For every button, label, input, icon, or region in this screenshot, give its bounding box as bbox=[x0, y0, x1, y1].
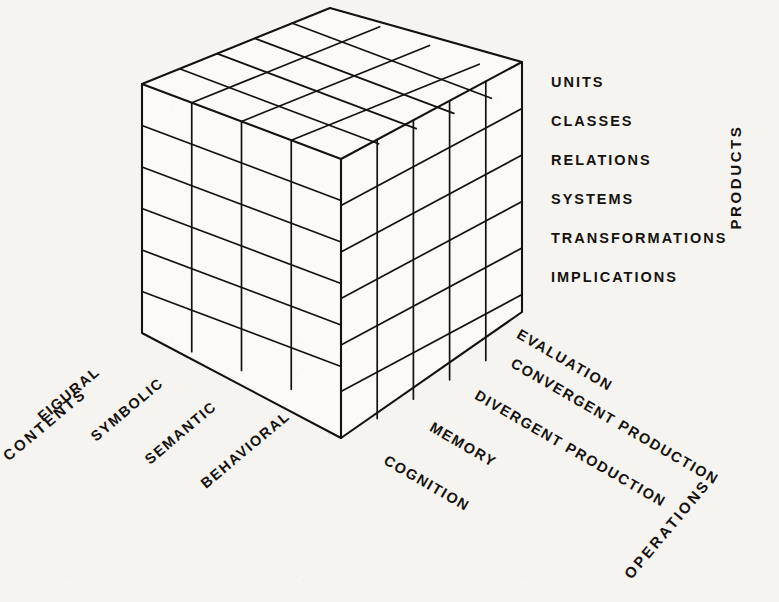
product-label-implications: IMPLICATIONS bbox=[551, 270, 678, 285]
figure-canvas: UNITS CLASSES RELATIONS SYSTEMS TRANSFOR… bbox=[0, 0, 779, 602]
product-label-systems: SYSTEMS bbox=[551, 192, 634, 207]
product-label-relations: RELATIONS bbox=[551, 153, 652, 168]
axis-label-products: PRODUCTS bbox=[728, 125, 743, 230]
product-label-transformations: TRANSFORMATIONS bbox=[551, 231, 727, 246]
soi-cube-drawing bbox=[0, 0, 779, 602]
product-label-classes: CLASSES bbox=[551, 114, 634, 129]
product-label-units: UNITS bbox=[551, 75, 605, 90]
